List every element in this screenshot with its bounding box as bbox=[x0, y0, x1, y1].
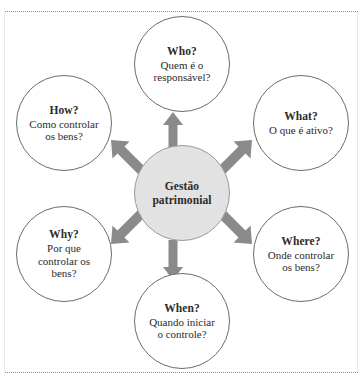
center-title-line1: Gestão bbox=[165, 179, 199, 193]
right-frame-rule bbox=[357, 12, 358, 372]
left-frame-rule bbox=[4, 12, 5, 372]
top-divider-rule bbox=[5, 11, 358, 12]
node-how-answer-line1: Como controlar bbox=[22, 118, 105, 131]
node-why-answer-line2: controlar os bbox=[31, 255, 97, 268]
node-why-answer-line1: Por que bbox=[40, 242, 88, 255]
node-how[interactable]: How? Como controlar os bens? bbox=[16, 75, 112, 171]
node-when[interactable]: When? Quando iniciar o controle? bbox=[134, 273, 230, 369]
diagram-canvas: Who? Quem é o responsável? What? O que é… bbox=[0, 0, 363, 384]
node-how-question: How? bbox=[49, 104, 78, 117]
node-where-answer-line2: os bens? bbox=[275, 261, 327, 274]
node-when-question: When? bbox=[164, 302, 200, 315]
node-what-question: What? bbox=[284, 110, 318, 123]
node-when-answer-line1: Quando iniciar bbox=[142, 316, 222, 329]
node-when-answer-line2: o controle? bbox=[150, 328, 213, 341]
node-what[interactable]: What? O que é ativo? bbox=[253, 75, 349, 171]
node-who[interactable]: Who? Quem é o responsável? bbox=[134, 16, 230, 112]
node-where-question: Where? bbox=[281, 235, 320, 248]
node-how-answer-line2: os bens? bbox=[38, 130, 90, 143]
bottom-divider-rule bbox=[5, 372, 358, 373]
center-title-line2: patrimonial bbox=[152, 193, 211, 207]
node-center-topic[interactable]: Gestão patrimonial bbox=[134, 145, 230, 241]
node-why-answer-line3: bens? bbox=[44, 267, 83, 280]
node-where-answer-line1: Onde controlar bbox=[261, 249, 341, 262]
node-who-answer-line2: responsável? bbox=[147, 71, 218, 84]
node-why-question: Why? bbox=[49, 228, 79, 241]
node-who-answer-line1: Quem é o bbox=[154, 59, 211, 72]
node-what-answer-line1: O que é ativo? bbox=[262, 124, 340, 137]
node-who-question: Who? bbox=[167, 45, 197, 58]
node-why[interactable]: Why? Por que controlar os bens? bbox=[16, 206, 112, 302]
node-where[interactable]: Where? Onde controlar os bens? bbox=[253, 206, 349, 302]
